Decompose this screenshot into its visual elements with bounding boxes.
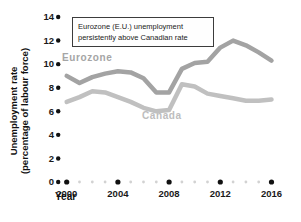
x-tick-dot-major	[167, 179, 172, 184]
y-tick-dot	[56, 15, 60, 19]
y-tick-label: 14	[43, 11, 54, 22]
annotation-box: Eurozone (E.U.) unemployment persistentl…	[72, 17, 214, 47]
x-tick-dot-minor	[181, 181, 184, 184]
y-tick-dot	[56, 109, 60, 113]
y-tick-label: 4	[49, 129, 55, 140]
x-tick-label: 2012	[210, 188, 231, 199]
y-tick-dot	[56, 180, 60, 184]
y-axis-title-line-2: (percentage of labour force)	[19, 36, 30, 186]
annotation-line-1: Eurozone (E.U.) unemployment	[78, 21, 208, 32]
unemployment-line-chart-figure: 0246810121420002004200820122016 Eurozone…	[0, 0, 301, 222]
y-tick-dot	[56, 38, 60, 42]
x-tick-dot-major	[269, 179, 274, 184]
y-tick-label: 6	[49, 106, 54, 117]
y-tick-dot	[56, 86, 60, 90]
x-tick-dot-minor	[78, 181, 81, 184]
x-tick-dot-major	[115, 179, 120, 184]
y-axis-title: Unemployment rate (percentage of labour …	[8, 36, 32, 186]
x-tick-dot-minor	[104, 181, 107, 184]
x-tick-dot-minor	[245, 181, 248, 184]
x-tick-dot-major	[64, 179, 69, 184]
y-tick-label: 12	[43, 35, 54, 46]
canada-series-label: Canada	[142, 110, 182, 121]
y-tick-label: 0	[49, 176, 54, 187]
y-tick-label: 8	[49, 82, 54, 93]
y-tick-dot	[56, 156, 60, 160]
x-tick-label: 2016	[261, 188, 282, 199]
y-tick-label: 10	[43, 58, 54, 69]
x-tick-label: 2008	[159, 188, 180, 199]
x-tick-dot-minor	[232, 181, 235, 184]
x-tick-dot-minor	[142, 181, 145, 184]
x-tick-dot-minor	[257, 181, 260, 184]
eurozone-series-label: Eurozone	[62, 52, 112, 63]
annotation-line-2: persistently above Canadian rate	[78, 32, 208, 43]
y-axis-title-line-1: Unemployment rate	[8, 36, 19, 186]
x-axis-title: Year	[55, 191, 76, 202]
x-tick-dot-minor	[155, 181, 158, 184]
x-tick-label: 2004	[107, 188, 129, 199]
x-tick-dot-minor	[193, 181, 196, 184]
x-tick-dot-minor	[206, 181, 209, 184]
y-tick-label: 2	[49, 153, 54, 164]
x-tick-dot-major	[218, 179, 223, 184]
eurozone-line	[67, 41, 272, 93]
x-tick-dot-minor	[91, 181, 94, 184]
y-tick-dot	[56, 62, 60, 66]
x-tick-dot-minor	[129, 181, 132, 184]
y-tick-dot	[56, 133, 60, 137]
